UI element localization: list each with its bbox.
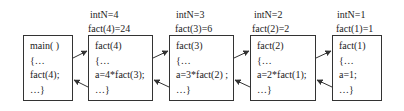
recursion-diagram: main( ) {… fact(4); …} intN=4 fact(4)=24…: [0, 0, 404, 111]
frame-line: a=3*fact(2) ;: [176, 68, 233, 83]
frame-line: …}: [95, 83, 152, 98]
frame-label-result: fact(3)=6: [175, 22, 212, 35]
frame-fact1: fact(1) {… a=1; …}: [332, 35, 382, 101]
frame-fact2: fact(2) {… a=2*fact(1); …}: [250, 35, 316, 101]
frame-line: a=2*fact(1);: [257, 68, 315, 83]
frame-line: …}: [257, 83, 315, 98]
call-arrow-icon: [153, 51, 168, 58]
frame-line: …}: [339, 83, 381, 98]
frame-label-result: fact(1)=1: [336, 22, 373, 35]
return-arrow-icon: [154, 80, 169, 87]
frame-line: {…: [30, 54, 72, 69]
return-arrow-icon: [235, 80, 250, 87]
frame-line: fact(1): [339, 39, 381, 54]
frame-line: main( ): [30, 39, 72, 54]
call-arrow-icon: [316, 51, 331, 58]
frame-label-intn: intN=2: [254, 8, 282, 21]
frame-line: fact(2): [257, 39, 315, 54]
frame-main: main( ) {… fact(4); …}: [23, 35, 73, 101]
frame-label-result: fact(4)=24: [88, 22, 130, 35]
frame-line: fact(4): [95, 39, 152, 54]
frame-line: …}: [176, 83, 233, 98]
frame-line: a=1;: [339, 68, 381, 83]
frame-label-intn: intN=1: [337, 8, 365, 21]
frame-fact3: fact(3) {… a=3*fact(2) ; …}: [169, 35, 234, 101]
frame-line: …}: [30, 83, 72, 98]
frame-label-intn: intN=3: [176, 8, 204, 21]
return-arrow-icon: [74, 80, 88, 87]
frame-line: a=4*fact(3);: [95, 68, 152, 83]
call-arrow-icon: [234, 51, 249, 58]
frame-line: {…: [339, 54, 381, 69]
frame-fact4: fact(4) {… a=4*fact(3); …}: [88, 35, 153, 101]
frame-line: {…: [95, 54, 152, 69]
frame-line: {…: [176, 54, 233, 69]
frame-line: fact(4);: [30, 68, 72, 83]
frame-line: fact(3): [176, 39, 233, 54]
call-arrow-icon: [73, 51, 87, 58]
return-arrow-icon: [317, 80, 332, 87]
frame-label-result: fact(2)=2: [252, 22, 289, 35]
frame-line: {…: [257, 54, 315, 69]
frame-label-intn: intN=4: [90, 8, 118, 21]
